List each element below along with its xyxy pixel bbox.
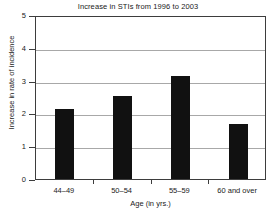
x-axis-tick (93, 180, 94, 184)
y-axis-tick-label: 2 (0, 110, 26, 118)
x-axis-tick (151, 180, 152, 184)
y-axis-tick-label: 3 (0, 78, 26, 86)
bar (55, 109, 74, 179)
plot-area (35, 16, 266, 180)
x-axis-tick (208, 180, 209, 184)
y-axis-tick-label: 5 (0, 12, 26, 20)
y-axis-tick (29, 180, 35, 181)
y-axis-tick-label: 4 (0, 45, 26, 53)
x-axis-tick-label: 44–49 (35, 186, 93, 195)
bars-layer (36, 17, 265, 179)
x-axis-tick-label: 60 and over (208, 186, 266, 195)
bar (171, 76, 190, 179)
y-axis-tick-label: 0 (0, 176, 26, 184)
chart-figure: Increase in STIs from 1996 to 2003 Incre… (0, 0, 276, 213)
bar (113, 96, 132, 179)
y-axis-tick-label: 1 (0, 143, 26, 151)
x-axis-title: Age (in yrs.) (35, 199, 266, 208)
x-axis-tick-label: 55–59 (151, 186, 209, 195)
chart-title: Increase in STIs from 1996 to 2003 (0, 2, 276, 11)
x-axis-tick-label: 50–54 (93, 186, 151, 195)
bar (229, 124, 248, 179)
